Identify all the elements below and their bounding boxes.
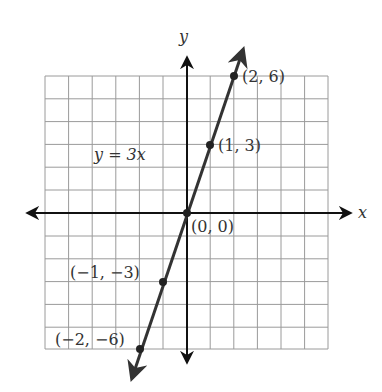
label-1-3: (1, 3) [218, 136, 261, 155]
y-axis-label: y [178, 27, 189, 46]
point-m2-m6 [136, 345, 144, 353]
label-2-6: (2, 6) [242, 67, 285, 86]
x-axis-label: x [358, 203, 367, 222]
label-0-0: (0, 0) [191, 217, 234, 236]
point-0-0 [183, 209, 191, 217]
point-1-3 [206, 141, 214, 149]
point-2-6 [230, 72, 238, 80]
coordinate-plane: x y (2, 6) (1, 3) (0, 0) (−1, −3) (−2, −… [0, 0, 382, 392]
label-m1-m3: (−1, −3) [70, 263, 140, 282]
point-m1-m3 [159, 278, 167, 286]
label-m2-m6: (−2, −6) [55, 330, 125, 349]
equation-label: y = 3x [93, 145, 146, 164]
